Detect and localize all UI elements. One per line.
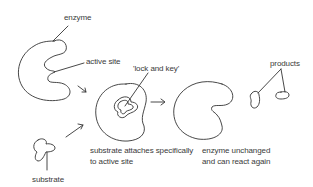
enzyme-pointer [53,26,68,41]
products-pointer-1 [258,69,281,93]
enzyme-shape-1 [18,40,70,101]
label-active-site: active site [86,57,120,67]
product-1 [250,91,259,108]
label-attach-line2: to active site [90,157,133,167]
lock-and-key-pointer [125,73,148,106]
products-pointer-2 [281,69,285,92]
label-lock-and-key: 'lock and key' [133,64,179,74]
product-2 [276,92,289,99]
substrate-shape [34,139,55,161]
label-attach-line1: substrate attaches specifically [90,146,193,156]
label-unchanged-line2: and can react again [202,157,270,167]
label-enzyme: enzyme [64,13,91,23]
label-products: products [270,59,300,69]
active-site-pointer [54,63,84,72]
arrow-substrate-to-complex [66,125,83,137]
label-unchanged-line1: enzyme unchanged [202,146,270,156]
enzyme-shape-3 [174,82,233,140]
label-substrate: substrate [32,175,64,185]
